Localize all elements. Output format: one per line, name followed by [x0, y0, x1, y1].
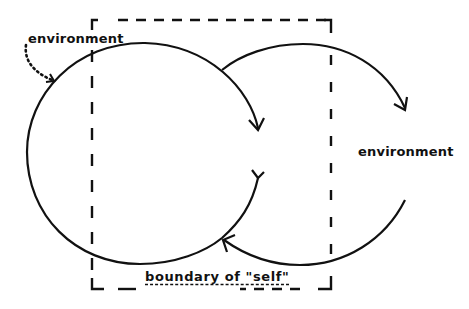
left-loop	[27, 43, 258, 264]
boundary-box	[92, 20, 331, 289]
env-input-arrow	[26, 45, 54, 82]
environment-label-left: environment	[28, 32, 124, 45]
environment-label-right: environment	[358, 145, 454, 158]
boundary-label: boundary of "self"	[143, 270, 291, 283]
diagram-canvas: environment environment boundary of "sel…	[0, 0, 469, 309]
left-loop-tail-icon	[252, 170, 264, 178]
